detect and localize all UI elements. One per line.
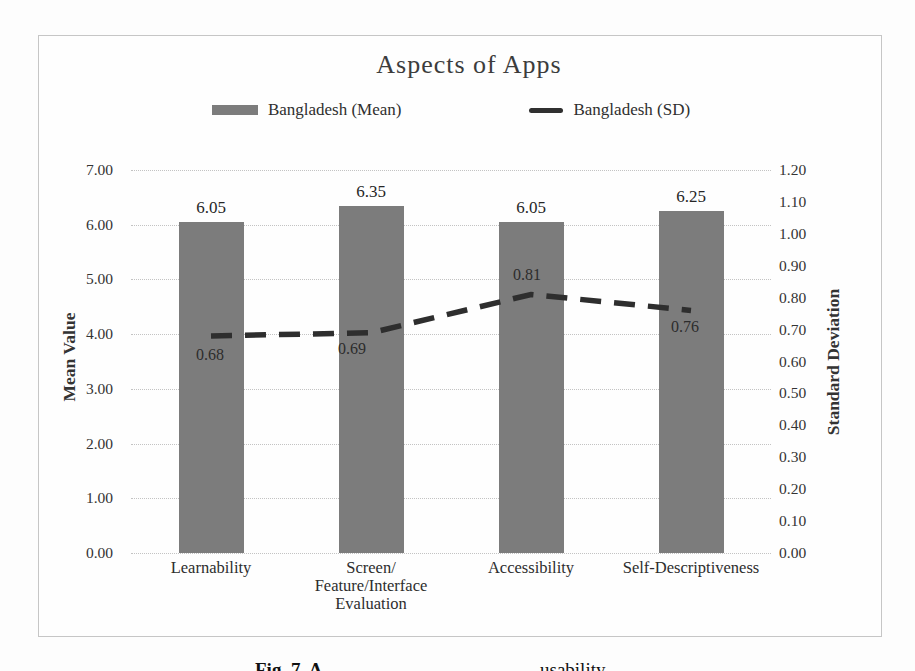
figure-caption-number: Fig. 7. A [255, 659, 323, 671]
right-axis-tick: 0.80 [779, 289, 839, 307]
dash-swatch-icon [529, 108, 563, 113]
legend-label-mean: Bangladesh (Mean) [268, 100, 402, 120]
right-axis-tick: 1.10 [779, 193, 839, 211]
right-axis-tick: 0.90 [779, 257, 839, 275]
right-axis-tick: 0.30 [779, 448, 839, 466]
right-axis-tick: 1.20 [779, 161, 839, 179]
right-axis-tick: 1.00 [779, 225, 839, 243]
right-axis-tick: 0.00 [779, 544, 839, 562]
legend-label-sd: Bangladesh (SD) [573, 100, 690, 120]
right-axis-tick: 0.70 [779, 321, 839, 339]
left-axis-tick: 1.00 [40, 489, 113, 507]
bar-swatch-icon [212, 105, 258, 115]
left-axis-tick: 3.00 [40, 380, 113, 398]
category-label: Accessibility [488, 559, 574, 577]
category-label: Self-Descriptiveness [623, 559, 760, 577]
sd-value-label: 0.69 [338, 340, 366, 358]
scanned-figure-page: Aspects of Apps Bangladesh (Mean) Bangla… [0, 0, 915, 671]
left-axis-tick: 4.00 [40, 325, 113, 343]
right-axis-tick: 0.10 [779, 512, 839, 530]
category-label: Screen/ Feature/Interface Evaluation [315, 559, 428, 613]
left-axis-tick: 0.00 [40, 544, 113, 562]
gridline [131, 553, 771, 554]
left-axis-tick: 2.00 [40, 435, 113, 453]
right-axis-tick: 0.20 [779, 480, 839, 498]
left-axis-tick: 6.00 [40, 216, 113, 234]
left-axis-tick: 5.00 [40, 270, 113, 288]
left-axis-tick: 7.00 [40, 161, 113, 179]
chart-title: Aspects of Apps [38, 50, 882, 80]
right-axis-tick: 0.50 [779, 384, 839, 402]
sd-line-chart [131, 170, 771, 553]
figure-caption-text: usability [540, 659, 605, 671]
sd-value-label: 0.81 [513, 266, 541, 284]
plot-area: 6.056.356.056.250.680.690.810.76 [131, 170, 771, 553]
chart-legend: Bangladesh (Mean) Bangladesh (SD) [131, 99, 771, 121]
legend-item-sd: Bangladesh (SD) [529, 100, 690, 120]
right-axis-tick: 0.60 [779, 353, 839, 371]
sd-line [211, 294, 691, 335]
legend-item-mean: Bangladesh (Mean) [212, 100, 402, 120]
figure-caption: Fig. 7. A usability [0, 659, 915, 671]
sd-value-label: 0.68 [196, 346, 224, 364]
category-label: Learnability [171, 559, 252, 577]
right-axis-tick: 0.40 [779, 416, 839, 434]
sd-value-label: 0.76 [671, 318, 699, 336]
